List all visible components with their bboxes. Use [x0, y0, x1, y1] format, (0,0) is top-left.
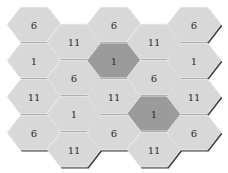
hex-value: 6 [151, 73, 157, 84]
hex-value: 11 [148, 145, 161, 156]
hex-board: 611161161116111611611161116 [0, 0, 228, 173]
hex-value: 11 [108, 92, 121, 103]
hex-value: 11 [68, 145, 81, 156]
hex-value: 1 [31, 56, 37, 67]
hex-value: 6 [111, 20, 117, 31]
hex-value: 11 [188, 92, 201, 103]
hex-value: 1 [191, 56, 197, 67]
hex-value: 6 [111, 128, 117, 139]
hex-value: 6 [191, 128, 197, 139]
hex-value: 6 [31, 20, 37, 31]
hex-value: 1 [71, 109, 77, 120]
hex-value: 6 [31, 128, 37, 139]
hex-value: 1 [151, 109, 157, 120]
hex-value: 11 [28, 92, 41, 103]
hex-value: 11 [68, 37, 81, 48]
hex-value: 1 [111, 56, 117, 67]
hex-value: 6 [191, 20, 197, 31]
hex-value: 11 [148, 37, 161, 48]
hex-value: 6 [71, 73, 77, 84]
hex-grid: 611161161116111611611161116 [7, 7, 222, 169]
